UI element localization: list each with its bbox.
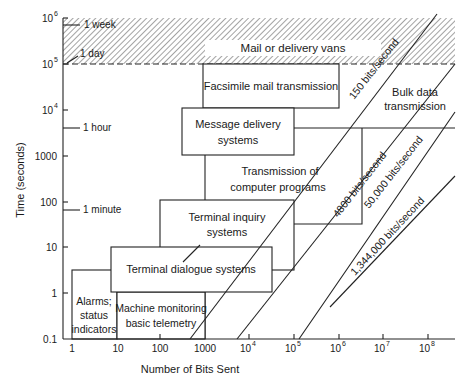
svg-text:6: 6 xyxy=(342,340,346,347)
svg-text:8: 8 xyxy=(431,340,435,347)
hour-label: 1 hour xyxy=(83,122,112,133)
svg-text:6: 6 xyxy=(54,10,58,17)
svg-text:10: 10 xyxy=(374,343,386,354)
machine-box xyxy=(117,292,205,339)
svg-text:100: 100 xyxy=(152,343,169,354)
y-tick-labels: 0.1 1 10 100 1000 xyxy=(35,151,58,345)
bulk-label-1: Bulk data xyxy=(392,86,439,98)
svg-text:10: 10 xyxy=(419,343,431,354)
facsimile-label: Facsimile mail transmission xyxy=(204,80,338,92)
chart: Mail or delivery vans Facsimile mail tra… xyxy=(0,0,470,387)
programs-label-2: computer programs xyxy=(230,181,326,193)
alarms-label-3: indicators xyxy=(72,323,117,335)
svg-text:1000: 1000 xyxy=(194,343,217,354)
alarms-label-1: Alarms; xyxy=(76,295,112,307)
svg-text:1: 1 xyxy=(69,343,75,354)
svg-text:100: 100 xyxy=(40,197,57,208)
svg-text:10: 10 xyxy=(42,13,54,24)
svg-text:10: 10 xyxy=(330,343,342,354)
rate-line-50000 xyxy=(299,112,455,339)
svg-text:0.1: 0.1 xyxy=(43,334,57,345)
svg-text:10: 10 xyxy=(46,242,58,253)
machine-label-1: Machine monitoring xyxy=(115,302,207,314)
minute-label: 1 minute xyxy=(83,204,122,215)
svg-text:10: 10 xyxy=(42,59,54,70)
x-tick-labels: 1 10 100 1000 xyxy=(69,343,216,354)
svg-text:5: 5 xyxy=(297,340,301,347)
x-tick-labels-exp: 10 4 10 5 10 6 10 7 10 8 xyxy=(240,340,435,354)
message-box xyxy=(182,108,294,155)
inquiry-label-2: systems xyxy=(207,226,248,238)
mail-label: Mail or delivery vans xyxy=(241,42,346,54)
svg-text:10: 10 xyxy=(42,105,54,116)
bulk-label-2: transmission xyxy=(384,100,446,112)
svg-text:5: 5 xyxy=(54,56,58,63)
day-label: 1 day xyxy=(80,48,104,59)
svg-text:10: 10 xyxy=(112,343,124,354)
svg-text:1: 1 xyxy=(51,288,57,299)
x-axis-title: Number of Bits Sent xyxy=(141,363,239,375)
inquiry-label-1: Terminal inquiry xyxy=(188,211,266,223)
rate-label-1344000: 1,344,000 bits/second xyxy=(348,194,427,277)
svg-text:7: 7 xyxy=(386,340,390,347)
programs-label-1: Transmission of xyxy=(241,165,319,177)
svg-text:4: 4 xyxy=(252,340,256,347)
dialogue-label: Terminal dialogue systems xyxy=(126,263,256,275)
svg-text:1000: 1000 xyxy=(35,151,58,162)
svg-text:10: 10 xyxy=(240,343,252,354)
y-axis-title: Time (seconds) xyxy=(14,142,26,217)
svg-text:10: 10 xyxy=(285,343,297,354)
week-label: 1 week xyxy=(84,19,117,30)
message-label-2: systems xyxy=(218,134,259,146)
message-label-1: Message delivery xyxy=(195,118,281,130)
machine-label-2: basic telemetry xyxy=(126,317,197,329)
y-tick-labels-exp: 10 4 10 5 10 6 xyxy=(42,10,58,116)
svg-text:4: 4 xyxy=(54,102,58,109)
alarms-label-2: status xyxy=(80,309,108,321)
